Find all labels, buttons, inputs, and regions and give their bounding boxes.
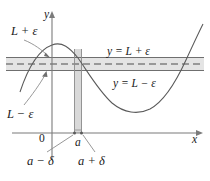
lower-callout-leader (24, 75, 45, 105)
a-minus-delta-label: a − δ (27, 155, 54, 168)
x-axis-label: x (192, 134, 197, 146)
y-axis-arrowhead (49, 11, 55, 18)
lower-line-equation-label: y = L − ε (113, 78, 156, 90)
a-plus-delta-leader (83, 135, 95, 152)
a-plus-delta-tick (80, 132, 83, 135)
lower-callout-arrowhead (42, 71, 48, 77)
a-minus-delta-leader (47, 135, 73, 152)
upper-line-equation-label: y = L + ε (107, 46, 150, 58)
y-axis-label: y (44, 9, 49, 21)
upper-bound-callout-label: L + ε (11, 25, 37, 38)
a-plus-delta-label: a + δ (78, 155, 105, 168)
upper-callout-leader (24, 40, 48, 56)
a-point-label: a (75, 137, 81, 149)
a-minus-delta-tick (73, 132, 76, 135)
epsilon-delta-limit-figure: L + ε L − ε y = L + ε y = L − ε y x 0 a … (0, 0, 210, 181)
origin-label: 0 (39, 133, 45, 145)
lower-bound-callout-label: L − ε (7, 108, 33, 121)
